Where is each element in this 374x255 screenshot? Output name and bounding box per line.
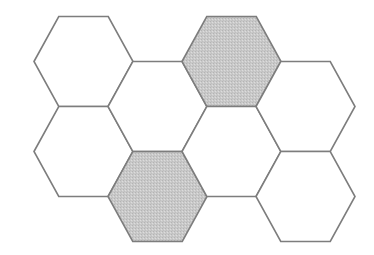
hexagon-tiling-canvas: [0, 0, 374, 255]
hexagon-figure: [0, 0, 374, 255]
